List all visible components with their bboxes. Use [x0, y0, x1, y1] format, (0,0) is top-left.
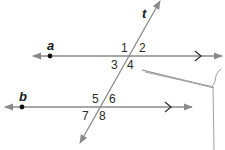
angle-2-label: 2 — [139, 41, 146, 55]
angle-4-label: 4 — [127, 58, 134, 72]
angle-7-label: 7 — [82, 109, 89, 123]
angle-6-label: 6 — [109, 92, 116, 106]
angle-5-label: 5 — [92, 92, 99, 106]
line-t-label: t — [142, 6, 147, 21]
angle-8-label: 8 — [99, 109, 106, 123]
line-a-label: a — [47, 38, 54, 53]
point-a — [48, 54, 53, 59]
callout-bubble — [142, 69, 221, 150]
angle-1-label: 1 — [121, 41, 128, 55]
angle-3-label: 3 — [111, 58, 118, 72]
point-b — [20, 105, 25, 110]
line-b-label: b — [19, 89, 27, 104]
parallel-lines-diagram: a b t 1 2 3 4 5 6 7 8 — [0, 0, 225, 150]
